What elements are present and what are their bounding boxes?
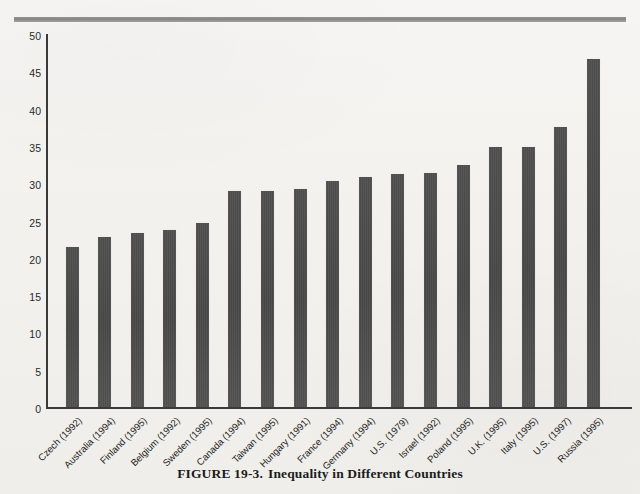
y-tick-label: 20 xyxy=(29,254,41,266)
bar xyxy=(554,127,567,407)
figure-title: Inequality in Different Countries xyxy=(268,466,463,481)
bar xyxy=(391,174,404,407)
figure-bar-chart: Gini coefficient of inequality 051015202… xyxy=(0,0,640,494)
figure-caption: FIGURE 19-3.Inequality in Different Coun… xyxy=(0,466,640,482)
y-axis-tick-labels: 05101520253035404550 xyxy=(46,34,47,409)
bar xyxy=(587,59,600,407)
y-tick-label: 5 xyxy=(35,366,41,378)
bar xyxy=(489,147,502,407)
bar xyxy=(196,223,209,407)
bar xyxy=(228,191,241,407)
y-tick-label: 15 xyxy=(29,291,41,303)
bar xyxy=(294,189,307,407)
y-tick-label: 30 xyxy=(29,179,41,191)
y-tick-label: 25 xyxy=(29,217,41,229)
bar xyxy=(457,165,470,407)
bar xyxy=(522,147,535,407)
y-tick-label: 50 xyxy=(29,30,41,42)
bar xyxy=(98,237,111,407)
y-tick-label: 40 xyxy=(29,105,41,117)
bar xyxy=(359,177,372,407)
y-tick-label: 35 xyxy=(29,142,41,154)
bar xyxy=(163,230,176,407)
bar xyxy=(131,233,144,407)
bar xyxy=(326,181,339,407)
y-tick-label: 0 xyxy=(35,403,41,415)
bar xyxy=(261,191,274,407)
bar xyxy=(66,247,79,407)
x-axis-line xyxy=(46,407,632,409)
y-tick-label: 45 xyxy=(29,67,41,79)
bar xyxy=(424,173,437,407)
bar-series xyxy=(48,34,632,407)
y-tick-label: 10 xyxy=(29,328,41,340)
figure-number: FIGURE 19-3. xyxy=(177,466,263,481)
plot-area: 05101520253035404550 Czech (1992)Austral… xyxy=(46,34,632,409)
